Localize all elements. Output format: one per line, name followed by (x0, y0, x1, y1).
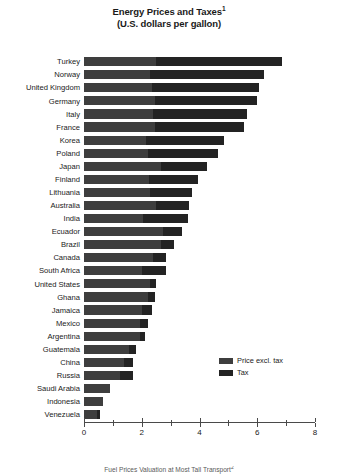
bar-segment-tax (153, 253, 166, 262)
bar-segment-tax (163, 227, 182, 236)
category-label: Korea (0, 136, 80, 145)
category-label: Venezuela (0, 410, 80, 419)
bar-segment-price-excl-tax (84, 149, 148, 158)
bar-row (84, 174, 315, 187)
bar-segment-price-excl-tax (84, 109, 153, 118)
stacked-bar (84, 175, 198, 184)
bar-row (84, 82, 315, 95)
bar-segment-tax (156, 57, 282, 66)
stacked-bar (84, 279, 156, 288)
stacked-bar (84, 371, 133, 380)
stacked-bar (84, 188, 192, 197)
category-label: Italy (0, 110, 80, 119)
stacked-bar (84, 109, 247, 118)
x-tick-label: 6 (247, 428, 267, 438)
bar-segment-price-excl-tax (84, 253, 153, 262)
bar-segment-price-excl-tax (84, 266, 142, 275)
category-axis: TurkeyNorwayUnited KingdomGermanyItalyFr… (0, 56, 80, 422)
bar-segment-tax (152, 83, 259, 92)
stacked-bar (84, 227, 182, 236)
stacked-bar (84, 122, 244, 131)
x-tick-inner (228, 420, 229, 423)
x-tick-label: 2 (132, 428, 152, 438)
category-label: France (0, 123, 80, 132)
category-label: Turkey (0, 57, 80, 66)
bar-row (84, 148, 315, 161)
bar-segment-price-excl-tax (84, 136, 146, 145)
category-label: Mexico (0, 319, 80, 328)
stacked-bar (84, 358, 133, 367)
stacked-bar (84, 397, 103, 406)
x-tick-label: 8 (305, 428, 325, 438)
bar-row (84, 396, 315, 409)
bar-segment-tax (161, 240, 174, 249)
stacked-bar (84, 162, 207, 171)
bar-segment-price-excl-tax (84, 175, 149, 184)
stacked-bar (84, 57, 282, 66)
bar-segment-price-excl-tax (84, 227, 163, 236)
bar-segment-price-excl-tax (84, 319, 140, 328)
bar-segment-tax (150, 70, 264, 79)
bar-row (84, 304, 315, 317)
stacked-bar (84, 332, 145, 341)
bar-segment-price-excl-tax (84, 214, 143, 223)
legend-swatch-price-excl-tax-icon (219, 358, 233, 365)
legend-label-tax: Tax (237, 369, 249, 377)
category-label: Lithuania (0, 188, 80, 197)
bar-row (84, 56, 315, 69)
bar-segment-tax (120, 371, 133, 380)
x-tick-inner (171, 420, 172, 423)
category-label: United States (0, 280, 80, 289)
category-label: Australia (0, 201, 80, 210)
category-label: Norway (0, 70, 80, 79)
bar-segment-price-excl-tax (84, 240, 161, 249)
stacked-bar (84, 149, 218, 158)
bar-segment-tax (97, 410, 100, 419)
category-label: Ghana (0, 293, 80, 302)
bar-row (84, 187, 315, 200)
bar-row (84, 161, 315, 174)
chart-footnote-text: Fuel Prices Valuation at Most Tall Trans… (104, 466, 231, 473)
bar-row (84, 69, 315, 82)
bar-row (84, 95, 315, 108)
category-label: Guatemala (0, 345, 80, 354)
x-tick-inner (113, 420, 114, 423)
category-label: United Kingdom (0, 83, 80, 92)
bar-segment-tax (149, 175, 198, 184)
legend-swatch-tax-icon (219, 370, 233, 377)
stacked-bar (84, 266, 166, 275)
bar-row (84, 226, 315, 239)
x-tick-minor (286, 423, 287, 426)
stacked-bar (84, 214, 188, 223)
bar-segment-price-excl-tax (84, 188, 150, 197)
x-tick-inner (142, 418, 143, 422)
chart-footnote-marker: 2 (231, 466, 234, 470)
x-tick-major (257, 423, 258, 427)
stacked-bar (84, 70, 264, 79)
category-label: India (0, 214, 80, 223)
bar-row (84, 213, 315, 226)
bar-row (84, 317, 315, 330)
category-label: Finland (0, 175, 80, 184)
bar-segment-tax (124, 358, 133, 367)
bar-segment-price-excl-tax (84, 305, 142, 314)
chart-title-block: Energy Prices and Taxes1 (U.S. dollars p… (0, 6, 338, 30)
bar-segment-tax (161, 162, 207, 171)
stacked-bar (84, 305, 152, 314)
bar-segment-tax (148, 149, 219, 158)
bar-segment-tax (140, 332, 144, 341)
category-label: Brazil (0, 240, 80, 249)
bar-segment-tax (142, 305, 152, 314)
bar-row (84, 291, 315, 304)
bar-segment-tax (146, 136, 224, 145)
bar-segment-tax (156, 201, 189, 210)
x-tick-inner (200, 418, 201, 422)
bar-segment-price-excl-tax (84, 332, 140, 341)
bar-segment-tax (153, 109, 247, 118)
bar-segment-price-excl-tax (84, 57, 156, 66)
bar-segment-price-excl-tax (84, 279, 150, 288)
bar-segment-price-excl-tax (84, 384, 110, 393)
stacked-bar (84, 345, 136, 354)
bar-segment-tax (148, 292, 155, 301)
